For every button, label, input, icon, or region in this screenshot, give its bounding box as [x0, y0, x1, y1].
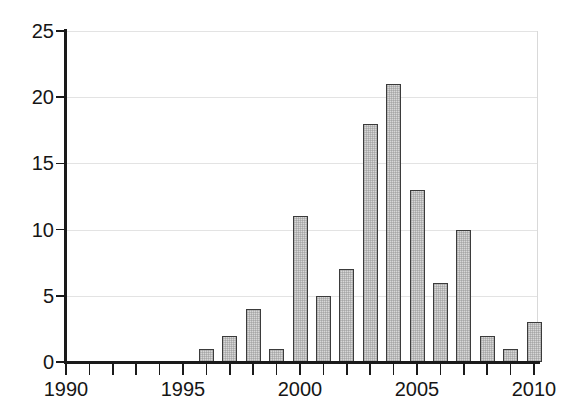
bar [386, 84, 401, 362]
y-tick-10 [56, 229, 65, 231]
bar [293, 216, 308, 362]
y-tick-20 [56, 96, 65, 98]
y-tick-label-25: 25 [14, 21, 54, 41]
x-tick-2008 [486, 364, 488, 375]
y-axis-tick-labels: 0510152025 [8, 0, 54, 413]
x-tick-2010 [533, 364, 535, 375]
x-tick-2007 [463, 364, 465, 375]
x-tick-1998 [252, 364, 254, 375]
bar [456, 230, 471, 362]
x-tick-1991 [89, 364, 91, 375]
y-tick-label-20: 20 [14, 87, 54, 107]
y-tick-label-10: 10 [14, 220, 54, 240]
bar [433, 283, 448, 362]
bar-series [66, 31, 538, 362]
bar [316, 296, 331, 362]
x-tick-1993 [135, 364, 137, 375]
x-tick-2000 [299, 364, 301, 375]
x-tick-label-2000: 2000 [278, 379, 323, 399]
bar [339, 269, 354, 362]
y-tick-label-0: 0 [14, 352, 54, 372]
x-tick-1996 [206, 364, 208, 375]
x-tick-1994 [159, 364, 161, 375]
x-tick-label-1995: 1995 [161, 379, 206, 399]
x-tick-2003 [369, 364, 371, 375]
bar-chart: 0510152025 19901995200020052010 [0, 0, 567, 413]
x-tick-label-2010: 2010 [512, 379, 557, 399]
bar [363, 124, 378, 362]
x-tick-label-2005: 2005 [395, 379, 440, 399]
y-axis-line [64, 29, 67, 364]
bar [410, 190, 425, 362]
y-tick-5 [56, 295, 65, 297]
bar [269, 349, 284, 362]
plot-area [66, 31, 538, 362]
x-tick-2001 [323, 364, 325, 375]
x-tick-1990 [65, 364, 67, 375]
x-tick-2002 [346, 364, 348, 375]
x-tick-1999 [276, 364, 278, 375]
bar [480, 336, 495, 362]
y-tick-15 [56, 163, 65, 165]
bar [222, 336, 237, 362]
x-tick-2004 [393, 364, 395, 375]
y-tick-25 [56, 30, 65, 32]
bar [503, 349, 518, 362]
y-tick-0 [56, 361, 65, 363]
x-tick-1995 [182, 364, 184, 375]
y-tick-label-15: 15 [14, 153, 54, 173]
x-tick-1992 [112, 364, 114, 375]
bar [199, 349, 214, 362]
x-tick-label-1990: 1990 [44, 379, 89, 399]
x-tick-2005 [416, 364, 418, 375]
x-tick-2006 [440, 364, 442, 375]
y-tick-label-5: 5 [14, 286, 54, 306]
x-tick-2009 [510, 364, 512, 375]
bar [527, 322, 542, 362]
bar [246, 309, 261, 362]
x-tick-1997 [229, 364, 231, 375]
